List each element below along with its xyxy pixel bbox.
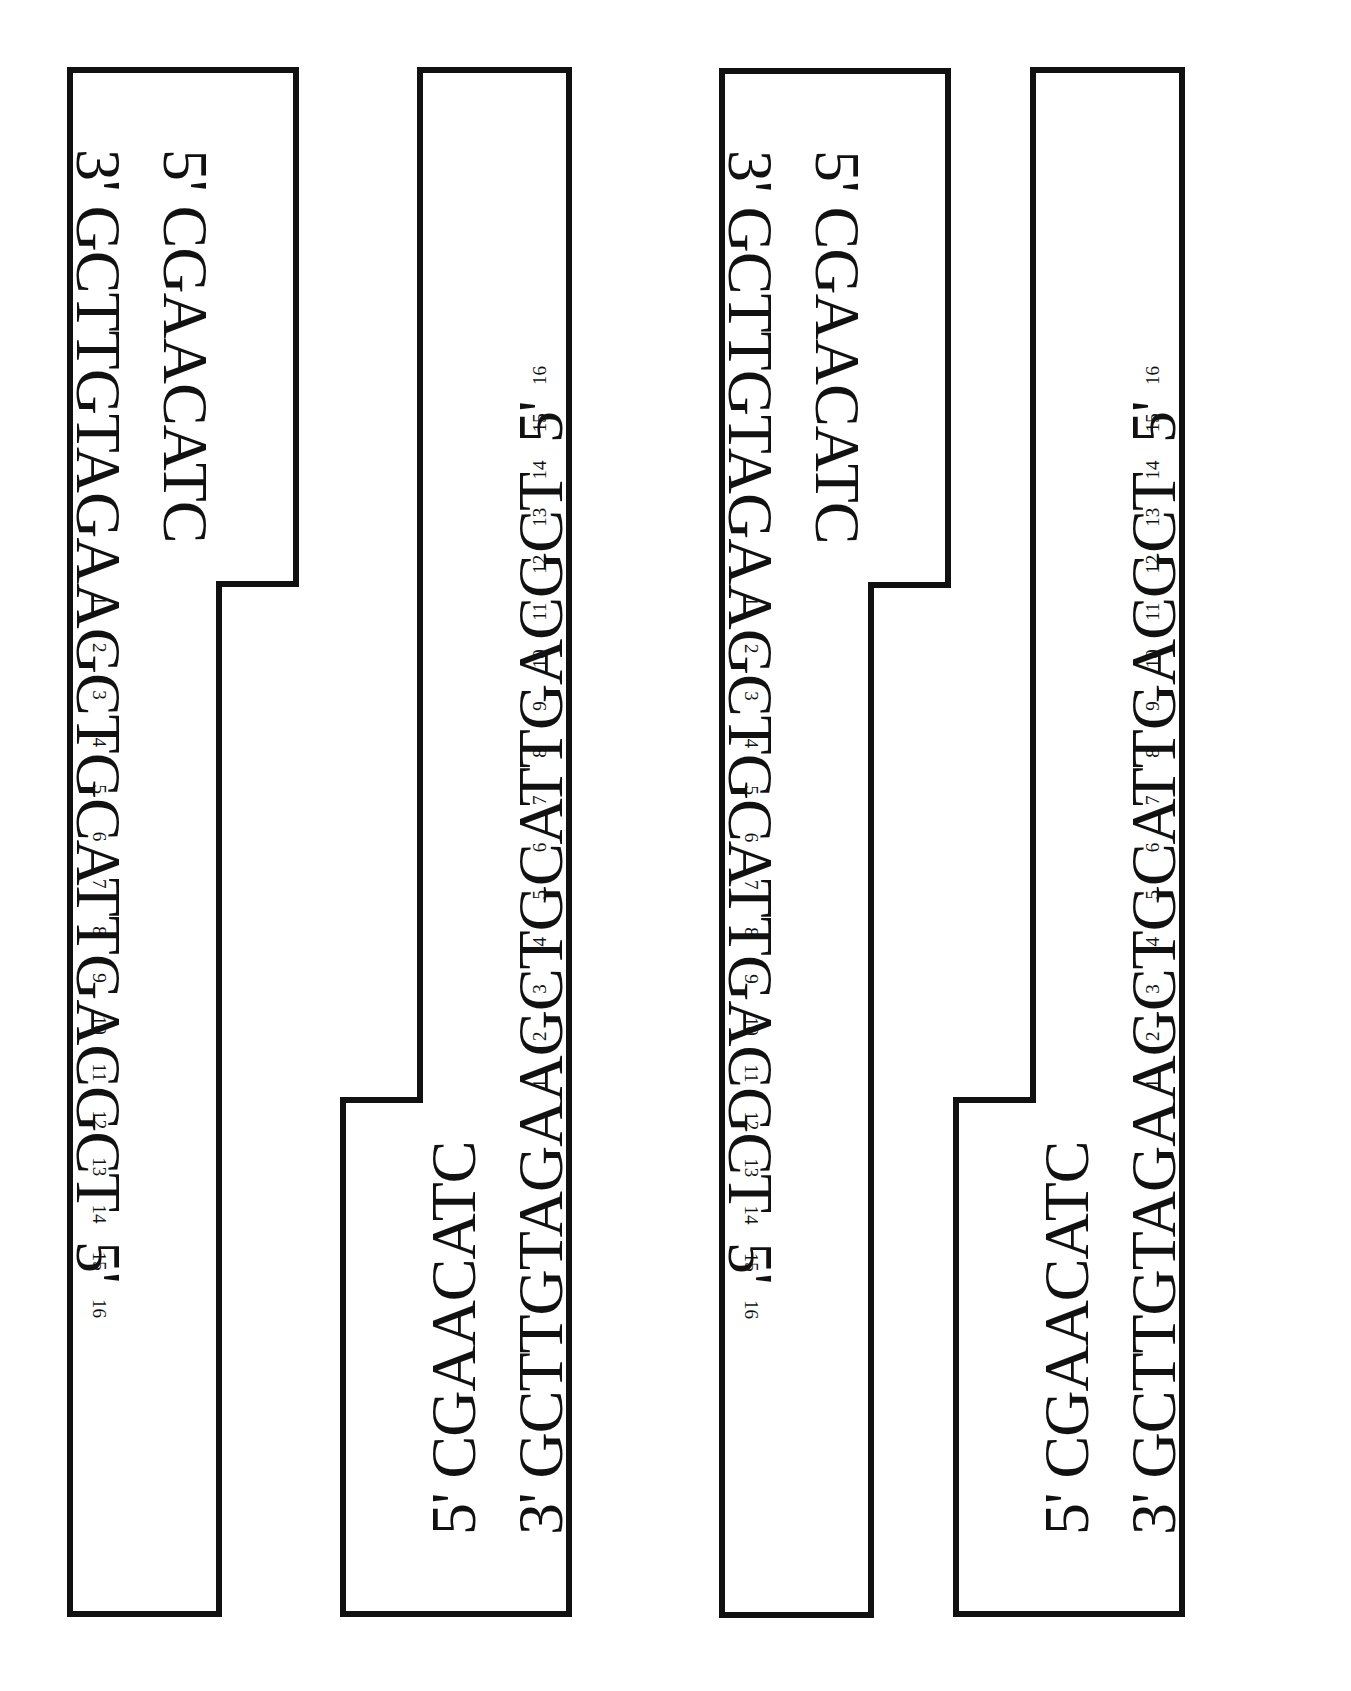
position-number: 11 bbox=[1143, 588, 1162, 635]
position-number: 3 bbox=[530, 965, 549, 1012]
position-number: 6 bbox=[90, 813, 109, 860]
position-number: 2 bbox=[1143, 1013, 1162, 1060]
position-number: 7 bbox=[1143, 777, 1162, 824]
position-number: 7 bbox=[90, 860, 109, 907]
position-number: 9 bbox=[1143, 682, 1162, 729]
position-number: 14 bbox=[530, 446, 549, 493]
position-number: 14 bbox=[1143, 446, 1162, 493]
bottom-strand-3prime-label: 3' bbox=[715, 150, 786, 192]
position-number: 5 bbox=[90, 766, 109, 813]
position-numbers: 1 2 3 4 5 6 7 8 9 10 11 12 13 14 15 16 bbox=[742, 578, 761, 1333]
bottom-strand-3prime-label: 3' bbox=[1118, 1493, 1189, 1535]
position-number: 6 bbox=[1143, 824, 1162, 871]
dna-strip-2: 5' CGAACATC 3' GCTTGTAGAAGCTGCATTGACGCT … bbox=[340, 67, 572, 1617]
position-number: 10 bbox=[1143, 635, 1162, 682]
position-number: 2 bbox=[90, 624, 109, 671]
position-number: 10 bbox=[742, 1003, 761, 1050]
position-number: 16 bbox=[1143, 352, 1162, 399]
position-number: 9 bbox=[90, 955, 109, 1002]
position-number: 14 bbox=[742, 1191, 761, 1238]
position-number: 10 bbox=[530, 635, 549, 682]
position-number: 10 bbox=[90, 1002, 109, 1049]
position-number: 13 bbox=[90, 1143, 109, 1190]
position-number: 11 bbox=[90, 1049, 109, 1096]
position-number: 1 bbox=[530, 1060, 549, 1107]
position-number: 3 bbox=[742, 672, 761, 719]
position-number: 8 bbox=[1143, 730, 1162, 777]
position-number: 6 bbox=[530, 824, 549, 871]
position-number: 9 bbox=[742, 956, 761, 1003]
position-number: 7 bbox=[530, 777, 549, 824]
position-number: 14 bbox=[90, 1190, 109, 1237]
position-number: 5 bbox=[1143, 871, 1162, 918]
position-number: 5 bbox=[530, 871, 549, 918]
position-number: 6 bbox=[742, 814, 761, 861]
position-number: 11 bbox=[530, 588, 549, 635]
position-number: 12 bbox=[530, 541, 549, 588]
position-number: 12 bbox=[90, 1096, 109, 1143]
position-number: 7 bbox=[742, 861, 761, 908]
position-number: 4 bbox=[90, 719, 109, 766]
position-number: 9 bbox=[530, 682, 549, 729]
position-number: 1 bbox=[742, 578, 761, 625]
position-number: 8 bbox=[90, 907, 109, 954]
dna-strip-4: 5' CGAACATC 3' GCTTGTAGAAGCTGCATTGACGCT … bbox=[953, 67, 1185, 1617]
position-number: 12 bbox=[742, 1097, 761, 1144]
position-number: 13 bbox=[742, 1144, 761, 1191]
position-number: 5 bbox=[742, 767, 761, 814]
position-number: 15 bbox=[1143, 399, 1162, 446]
position-number: 1 bbox=[90, 577, 109, 624]
position-number: 2 bbox=[530, 1013, 549, 1060]
position-number: 8 bbox=[530, 730, 549, 777]
position-number: 1 bbox=[1143, 1060, 1162, 1107]
dna-strip-1: 5' CGAACATC 3' GCTTGTAGAAGCTGCATTGACGCT … bbox=[67, 67, 299, 1617]
position-number: 15 bbox=[90, 1238, 109, 1285]
position-number: 2 bbox=[742, 625, 761, 672]
bottom-strand-3prime-label: 3' bbox=[63, 149, 134, 191]
bottom-strand-3prime-label: 3' bbox=[505, 1493, 576, 1535]
position-numbers: 1 2 3 4 5 6 7 8 9 10 11 12 13 14 15 16 bbox=[530, 352, 549, 1107]
position-number: 4 bbox=[530, 918, 549, 965]
position-number: 4 bbox=[742, 720, 761, 767]
position-number: 4 bbox=[1143, 918, 1162, 965]
position-number: 12 bbox=[1143, 541, 1162, 588]
position-number: 11 bbox=[742, 1050, 761, 1097]
position-number: 8 bbox=[742, 908, 761, 955]
dna-strip-3: 5' CGAACATC 3' GCTTGTAGAAGCTGCATTGACGCT … bbox=[719, 68, 951, 1618]
position-number: 3 bbox=[1143, 965, 1162, 1012]
position-number: 3 bbox=[90, 671, 109, 718]
position-numbers: 1 2 3 4 5 6 7 8 9 10 11 12 13 14 15 16 bbox=[90, 577, 109, 1332]
position-number: 16 bbox=[742, 1286, 761, 1333]
position-numbers: 1 2 3 4 5 6 7 8 9 10 11 12 13 14 15 16 bbox=[1143, 352, 1162, 1107]
position-number: 15 bbox=[530, 399, 549, 446]
position-number: 13 bbox=[530, 494, 549, 541]
position-number: 16 bbox=[530, 352, 549, 399]
position-number: 15 bbox=[742, 1239, 761, 1286]
position-number: 13 bbox=[1143, 494, 1162, 541]
position-number: 16 bbox=[90, 1285, 109, 1332]
